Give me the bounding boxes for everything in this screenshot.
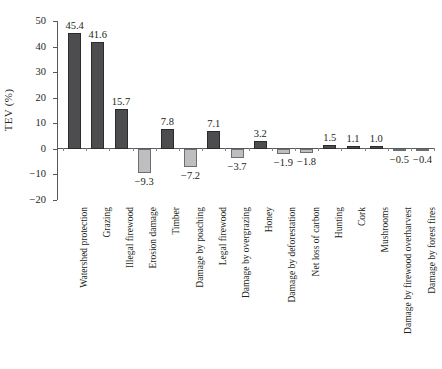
- x-axis-tick-mark: [272, 148, 273, 151]
- bar: [254, 141, 267, 149]
- bar: [184, 149, 197, 167]
- plot-area: 50403020100−10−20 45.441.615.7−9.37.8−7.…: [57, 21, 435, 200]
- bar: [68, 33, 81, 149]
- y-axis-tick-mark: 20: [53, 98, 57, 99]
- x-axis-tick-mark: [225, 148, 226, 151]
- y-axis-tick-label: 20: [36, 93, 47, 103]
- x-axis-category-label: Damage by poaching: [195, 207, 205, 288]
- x-axis-category-label: Cork: [357, 207, 367, 226]
- y-axis-tick-label: −20: [30, 195, 46, 205]
- x-axis-category-label: Grazing: [102, 207, 112, 238]
- bar: [138, 149, 151, 173]
- x-axis-tick-mark: [365, 148, 366, 151]
- bar: [323, 145, 336, 149]
- x-axis-category-label: Damage by overgrazing: [241, 207, 251, 298]
- x-axis-category-label: Hunting: [334, 207, 344, 238]
- x-axis-category-label: Net loss of carbon: [311, 207, 321, 276]
- x-axis-tick-mark: [202, 148, 203, 151]
- x-axis-tick-mark: [156, 148, 157, 151]
- x-axis-category-label: Damage by firewood overharvest: [403, 207, 413, 334]
- x-axis-category-label: Damage by forest fires: [427, 207, 437, 294]
- y-axis-tick-label: 10: [36, 118, 47, 128]
- x-axis-tick-mark: [249, 148, 250, 151]
- x-axis-category-label: Erosion damage: [148, 207, 158, 268]
- x-axis-category-label: Honey: [264, 207, 274, 232]
- bar-value-label: 7.1: [194, 118, 234, 129]
- bar-chart-figure: TEV (%) 50403020100−10−20 45.441.615.7−9…: [0, 0, 442, 369]
- y-axis-tick-label: 0: [41, 144, 46, 154]
- bar-value-label: 1.0: [356, 133, 396, 144]
- bar: [277, 149, 290, 154]
- bar-value-label: −7.2: [171, 170, 211, 181]
- x-axis-tick-mark: [388, 148, 389, 151]
- bar-value-label: −0.4: [403, 154, 442, 165]
- y-axis-tick-mark: 10: [53, 123, 57, 124]
- bar: [161, 129, 174, 149]
- bar: [393, 149, 406, 152]
- x-axis-tick-mark: [295, 148, 296, 151]
- x-axis-tick-mark: [86, 148, 87, 151]
- bar-value-label: 7.8: [147, 116, 187, 127]
- x-axis-category-label: Mushrooms: [380, 207, 390, 252]
- bar: [231, 149, 244, 158]
- y-axis-tick-mark: 30: [53, 72, 57, 73]
- x-axis-tick-mark: [318, 148, 319, 151]
- x-axis-tick-mark: [63, 148, 64, 151]
- bar-value-label: −9.3: [124, 176, 164, 187]
- bar-value-label: 15.7: [101, 96, 141, 107]
- y-axis-tick-mark: 40: [53, 47, 57, 48]
- bar-value-label: 3.2: [240, 128, 280, 139]
- bar: [347, 146, 360, 149]
- y-axis-tick-label: 50: [36, 16, 47, 26]
- bar: [207, 131, 220, 149]
- x-axis-category-label: Timber: [171, 207, 181, 235]
- y-axis-tick-label: −10: [30, 169, 46, 179]
- x-axis-tick-mark: [434, 148, 435, 151]
- x-axis-tick-mark: [109, 148, 110, 151]
- bar: [370, 146, 383, 149]
- y-axis-line: [57, 21, 58, 200]
- bar-value-label: −3.7: [217, 161, 257, 172]
- x-axis-category-label: Legal firewood: [218, 207, 228, 265]
- x-axis-category-label: Watershed protection: [79, 207, 89, 288]
- x-axis-category-label: Damage by deforestation: [287, 207, 297, 303]
- bar: [115, 109, 128, 149]
- y-axis-tick-label: 30: [36, 67, 47, 77]
- x-axis-tick-mark: [133, 148, 134, 151]
- x-axis-tick-mark: [179, 148, 180, 151]
- x-axis-tick-mark: [341, 148, 342, 151]
- bar: [416, 149, 429, 152]
- x-axis-tick-mark: [411, 148, 412, 151]
- x-axis-category-label: Illegal firewood: [125, 207, 135, 268]
- y-axis-tick-mark: −20: [53, 200, 57, 201]
- y-axis-title: TEV (%): [2, 70, 14, 150]
- bar: [300, 149, 313, 154]
- bar-value-label: −1.8: [287, 156, 327, 167]
- bar-value-label: 41.6: [78, 29, 118, 40]
- y-axis-tick-mark: 0: [53, 149, 57, 150]
- y-axis-tick-mark: −10: [53, 174, 57, 175]
- y-axis-tick-label: 40: [36, 42, 47, 52]
